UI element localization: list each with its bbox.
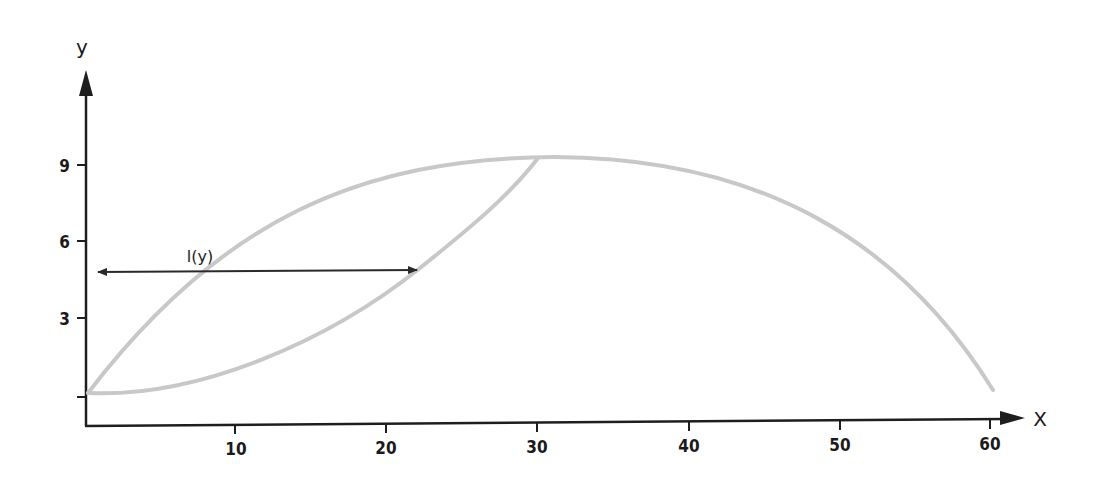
x-tick-10: 10 <box>225 439 246 459</box>
x-tick-20: 20 <box>375 438 396 458</box>
annotation-label: l(y) <box>187 247 213 266</box>
x-axis-arrow-icon <box>1000 411 1025 425</box>
y-tick-6: 6 <box>59 232 70 252</box>
x-tick-50: 50 <box>829 435 850 455</box>
x-tick-30: 30 <box>526 437 547 457</box>
y-axis-label: y <box>76 35 88 59</box>
length-annotation: l(y) <box>98 247 417 272</box>
x-tick-40: 40 <box>678 436 699 456</box>
inner-curve <box>88 158 538 393</box>
diagram-canvas: y 9 6 3 X 10 20 30 40 50 60 l(y) <box>0 0 1097 488</box>
x-axis-label: X <box>1033 407 1047 431</box>
y-tick-3: 3 <box>59 309 70 329</box>
x-tick-60: 60 <box>979 434 1000 454</box>
y-axis: y 9 6 3 <box>59 35 93 426</box>
y-tick-9: 9 <box>59 156 70 176</box>
x-axis: X 10 20 30 40 50 60 <box>85 407 1047 459</box>
outer-arc-curve <box>88 157 993 393</box>
double-arrow-icon <box>98 270 417 272</box>
y-axis-arrow-icon <box>79 70 93 96</box>
